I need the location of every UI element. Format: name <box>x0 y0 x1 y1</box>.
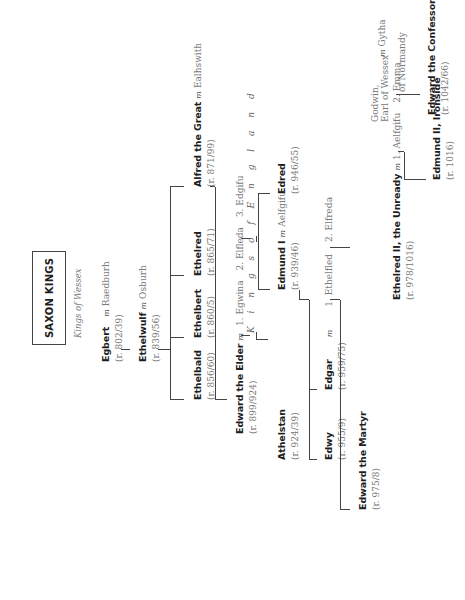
person-ethelred: Ethelred (r. 865/71) <box>186 228 216 276</box>
line-egwina-down <box>241 335 250 336</box>
line-edgifu-children <box>258 194 259 290</box>
spouse-emma-line2: of Normandy <box>397 32 407 92</box>
spouse-name: 1. Egwina <box>235 280 245 326</box>
line-to-edward-confessor <box>396 94 420 95</box>
spouse-name: Raedburh <box>101 261 111 306</box>
godwin-marriage: mGytha <box>370 19 389 60</box>
spouse-name: 2. Elfreda <box>324 197 334 242</box>
person-edgar: Edgarm1. Ethelfled2. Elfreda (r. 959/75) <box>317 197 347 390</box>
spouse-name: Gytha <box>377 19 387 46</box>
line-edmund1-children <box>309 300 310 460</box>
marriage-symbol: m <box>102 309 111 317</box>
person-name: Edward the Martyr <box>357 411 368 510</box>
page-title: SAXON KINGS <box>44 258 55 338</box>
spouse-name: Osburh <box>138 265 148 299</box>
line-aelfgifu-out <box>404 152 405 180</box>
person-name: Egbert <box>100 327 111 362</box>
reign-dates: (r. 1042/66) <box>440 0 450 115</box>
reign-dates: (r. 924/39) <box>290 409 300 460</box>
spouse-name: Aelfgifu <box>277 191 287 227</box>
line-ethelfled-down <box>330 299 340 300</box>
godwin-name-line2: Earl of Wessex <box>380 55 390 122</box>
spouse-name: Ealhswith <box>193 43 203 88</box>
line-egbert-ethelwulf <box>121 349 130 350</box>
line-edgifu-stub <box>256 236 257 242</box>
diagram-frame: SAXON KINGS Kings of Wessex EgbertmRaedb… <box>0 0 465 600</box>
line-ethelwulf-children <box>170 187 171 400</box>
person-name: Edgar <box>323 359 334 390</box>
person-egbert: EgbertmRaedburh (r. 802/39) <box>94 261 124 362</box>
reign-dates: (r. 871/99) <box>206 43 216 187</box>
marriage-symbol: m <box>278 230 287 238</box>
person-name: Ethelwulf <box>137 312 148 362</box>
line-to-edmund2 <box>404 179 426 180</box>
line-to-ethelred <box>170 275 184 276</box>
reign-dates: (r. 939/46) <box>290 191 300 290</box>
person-ethelbert: Ethelbert (r. 860/5) <box>186 289 216 338</box>
person-name: Ethelred II, the Unready <box>391 174 402 300</box>
godwin-name-line1: Godwin, <box>370 55 380 122</box>
reign-dates: (r. 802/39) <box>114 261 124 362</box>
marriage-symbol: m <box>194 91 203 99</box>
family-tree-canvas: SAXON KINGS Kings of Wessex EgbertmRaedb… <box>0 0 465 600</box>
person-athelstan: Athelstan (r. 924/39) <box>270 409 300 460</box>
reign-dates: (r. 978/1016) <box>405 62 415 300</box>
person-name: Athelstan <box>276 409 287 460</box>
person-godwin: Godwin, Earl of Wessex <box>370 55 390 122</box>
spouse-name: 2. Elfleda <box>235 227 245 270</box>
person-name: Edward the Confessor <box>426 0 437 115</box>
line-edgifu-down <box>241 238 250 239</box>
person-edmund-i: Edmund ImAelfgifu (r. 939/46) <box>270 191 300 290</box>
person-name: Ethelbald <box>192 350 203 400</box>
line-to-ethelbald <box>170 399 184 400</box>
line-ethelfled-child <box>340 300 341 510</box>
person-name: Edwy <box>323 432 334 460</box>
line-to-athelstan <box>256 339 268 340</box>
line-edmund1-down <box>299 299 309 300</box>
line-to-ethelbert <box>170 337 184 338</box>
person-name: Ethelbert <box>192 289 203 338</box>
reign-dates: (r. 959/75) <box>337 197 347 390</box>
person-edred: Edred (r. 946/55) <box>270 146 300 194</box>
reign-dates: (r. 975/8) <box>371 411 381 510</box>
marriage-symbol: m <box>325 330 334 338</box>
spouse-name: 3. Edgifu <box>235 176 245 218</box>
line-ethelwulf-down <box>158 349 170 350</box>
line-to-alfred <box>170 186 184 187</box>
subtitle-kings-of-wessex: Kings of Wessex <box>73 268 83 338</box>
line-to-edgar <box>309 389 317 390</box>
marriage-symbol: m <box>393 163 402 171</box>
line-elfreda-down <box>330 247 350 248</box>
person-edward-the-martyr: Edward the Martyr (r. 975/8) <box>351 411 381 510</box>
line-to-edmund1 <box>258 289 270 290</box>
person-name: Edred <box>276 163 287 194</box>
line-to-edward-martyr <box>340 509 350 510</box>
person-ethelbald: Ethelbald (r. 856/60) <box>186 350 216 400</box>
spouse-name: 1. Aelfgifu <box>392 113 402 160</box>
person-name: Ethelred <box>192 231 203 276</box>
reign-dates: (r. 955/9) <box>337 418 347 460</box>
person-name: Alfred the Great <box>192 102 203 187</box>
person-edwy: Edwy (r. 955/9) <box>317 418 347 460</box>
line-to-edred <box>258 193 270 194</box>
reign-dates: (r. 839/56) <box>151 265 161 362</box>
person-ethelwulf: EthelwulfmOsburh (r. 839/56) <box>131 265 161 362</box>
line-to-edward-elder <box>215 399 227 400</box>
marriage-symbol: m <box>139 302 148 310</box>
section-label-kings-of-england: K i n g s o f E n g l a n d <box>246 88 256 333</box>
person-edward-the-confessor: Edward the ConfessormEdith (r. 1042/66) <box>420 0 450 115</box>
person-name: Edmund I <box>276 240 287 290</box>
line-alfred-to-edward <box>215 187 216 400</box>
title-box: SAXON KINGS <box>32 251 66 345</box>
line-alfred-down <box>210 186 215 187</box>
reign-dates: (r. 946/55) <box>290 146 300 194</box>
marriage-symbol: m <box>378 49 387 57</box>
line-to-edwy <box>309 459 317 460</box>
person-name: Edward the Elder <box>234 344 245 434</box>
person-alfred-the-great: Alfred the GreatmEalhswith (r. 871/99) <box>186 43 216 187</box>
